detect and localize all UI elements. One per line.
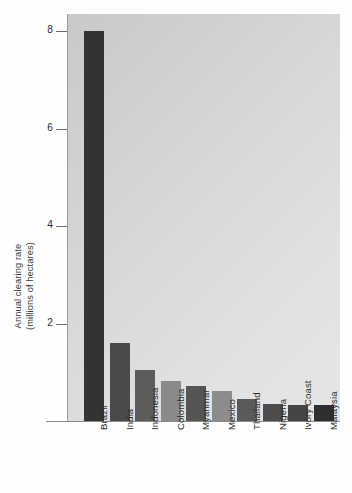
x-tick-label-indonesia: Indonesia [149,387,160,430]
x-tick-label-malaysia: Malaysia [328,391,339,430]
y-axis-line [67,14,68,421]
x-tick-label-thailand: Thailand [251,392,262,430]
y-tick-2 [56,324,67,325]
bar-chart-figure: Annual clearing rate (millions of hectar… [0,0,352,493]
y-tick-label-6: 6 [26,122,53,133]
y-tick-6 [56,129,67,130]
y-tick-4 [56,226,67,227]
y-axis-title-line-1: Annual clearing rate [13,242,25,330]
x-tick-label-myanmar: Myanmar [200,389,211,430]
plot-area [67,14,340,421]
x-tick-label-india: India [124,409,135,430]
x-tick-label-colombia: Colombia [175,389,186,430]
y-tick-label-8: 8 [26,24,53,35]
x-tick-label-nigeria: Nigeria [277,399,288,430]
x-tick-label-mexico: Mexico [226,399,237,430]
y-tick-8 [56,31,67,32]
y-tick-label-2: 2 [26,317,53,328]
x-tick-label-ivory-coast: Ivory Coast [302,380,313,430]
x-axis-line [46,421,340,422]
bar-brazil [84,31,104,421]
y-tick-label-4: 4 [26,219,53,230]
x-tick-label-brazil: Brazil [98,405,109,430]
